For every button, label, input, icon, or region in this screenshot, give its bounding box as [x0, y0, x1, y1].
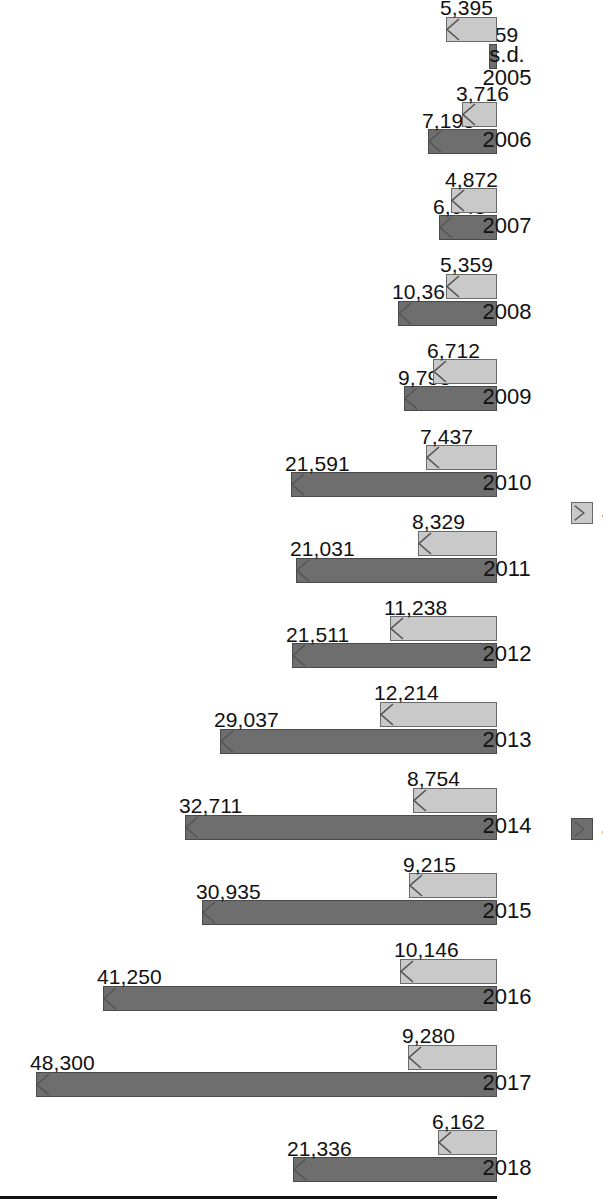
- value-label: 9,280: [402, 1024, 455, 1048]
- value-label: 8,329: [412, 510, 465, 534]
- legend-swatch-icon: [571, 818, 593, 840]
- rotated-figure: 8595,3957,1953,7166,0484,87210,3625,3599…: [0, 0, 603, 1199]
- tick-line: 2010: [464, 471, 550, 494]
- bar-tip-chevron: [291, 473, 305, 496]
- bar-rect: [103, 986, 497, 1011]
- bar-tip-chevron: [202, 901, 216, 924]
- tick-line: 2006: [464, 128, 550, 151]
- bar-rect: [390, 616, 497, 641]
- bar-rect: [413, 788, 497, 813]
- chart-canvas: 8595,3957,1953,7166,0484,87210,3625,3599…: [0, 0, 603, 1199]
- value-label: 6,712: [427, 339, 480, 363]
- bar-rect: [400, 959, 497, 984]
- bar-tip-chevron: [404, 387, 418, 410]
- tick-label-6: 2011: [464, 557, 550, 580]
- bar-rect: [380, 702, 497, 727]
- bar-tip-chevron: [185, 816, 199, 839]
- bar-tip-chevron: [413, 789, 427, 812]
- bar-rect: [433, 359, 497, 384]
- bar-tip-chevron: [292, 644, 306, 667]
- value-label: 12,214: [374, 681, 439, 705]
- tick-line: 2007: [464, 214, 550, 237]
- bar-tip-chevron: [220, 730, 234, 753]
- bar-tip-chevron: [438, 1131, 452, 1154]
- tick-line: 2014: [464, 814, 550, 837]
- value-label: 7,437: [420, 425, 473, 449]
- tick-label-8: 2013: [464, 728, 550, 751]
- tick-label-0: s.d.2005: [464, 43, 550, 90]
- tick-label-7: 2012: [464, 642, 550, 665]
- tick-label-3: 2008: [464, 300, 550, 323]
- bar-tip-chevron: [428, 130, 442, 153]
- value-label: 6,162: [432, 1110, 485, 1134]
- bar-rect: [446, 274, 497, 299]
- bar-rect: [418, 531, 497, 556]
- bar-rect: [446, 17, 497, 42]
- tick-label-12: 2017: [464, 1071, 550, 1094]
- tick-line: 2015: [464, 899, 550, 922]
- value-label: 5,359: [440, 253, 493, 277]
- tick-label-2: 2007: [464, 214, 550, 237]
- bar-tip-chevron: [451, 189, 465, 212]
- value-label: 10,146: [394, 938, 459, 962]
- tick-line: 2012: [464, 642, 550, 665]
- bar-tip-chevron: [296, 559, 310, 582]
- bar-tip-chevron: [293, 1158, 307, 1181]
- tick-line: s.d.: [464, 43, 550, 66]
- bar-tip-chevron: [446, 18, 460, 41]
- tick-line: 2018: [464, 1156, 550, 1179]
- legend-item-aids[interactable]: Jumlah Kasus AIDS: [571, 499, 603, 526]
- bar-rect: [409, 873, 497, 898]
- legend-item-hiv[interactable]: Jumlah Kasus HIV: [571, 815, 603, 842]
- value-label: 5,395: [440, 0, 493, 20]
- bar-tip-chevron: [409, 874, 423, 897]
- tick-label-10: 2015: [464, 899, 550, 922]
- chart-legend: Jumlah Kasus HIVJumlah Kasus AIDS: [0, 0, 106, 1199]
- tick-line: 2009: [464, 385, 550, 408]
- tick-label-9: 2014: [464, 814, 550, 837]
- tick-label-1: 2006: [464, 128, 550, 151]
- bar-tip-chevron: [426, 446, 440, 469]
- value-label: 9,215: [403, 853, 456, 877]
- tick-line: 2013: [464, 728, 550, 751]
- bar-rect: [185, 815, 497, 840]
- tick-label-4: 2009: [464, 385, 550, 408]
- bar-rect: [408, 1045, 497, 1070]
- bar-tip-chevron: [390, 617, 404, 640]
- bar-tip-chevron: [380, 703, 394, 726]
- bar-tip-chevron: [446, 275, 460, 298]
- bar-tip-chevron: [398, 302, 412, 325]
- bar-tip-chevron: [433, 360, 447, 383]
- bar-tip-chevron: [462, 103, 476, 126]
- legend-swatch-icon: [571, 502, 593, 524]
- bar-tip-chevron: [408, 1046, 422, 1069]
- tick-label-11: 2016: [464, 985, 550, 1008]
- bar-rect: [202, 900, 497, 925]
- tick-line: 2008: [464, 300, 550, 323]
- bar-tip-chevron: [439, 216, 453, 239]
- tick-label-13: 2018: [464, 1156, 550, 1179]
- bar-rect: [462, 102, 497, 127]
- value-label: 8,754: [407, 767, 460, 791]
- tick-line: 2017: [464, 1071, 550, 1094]
- tick-line: 2005: [464, 66, 550, 89]
- value-label: 4,872: [445, 168, 498, 192]
- bar-rect: [220, 729, 497, 754]
- tick-line: 2016: [464, 985, 550, 1008]
- tick-line: 2011: [464, 557, 550, 580]
- tick-label-5: 2010: [464, 471, 550, 494]
- bar-tip-chevron: [400, 960, 414, 983]
- bar-tip-chevron: [418, 532, 432, 555]
- value-label: 11,238: [384, 596, 447, 620]
